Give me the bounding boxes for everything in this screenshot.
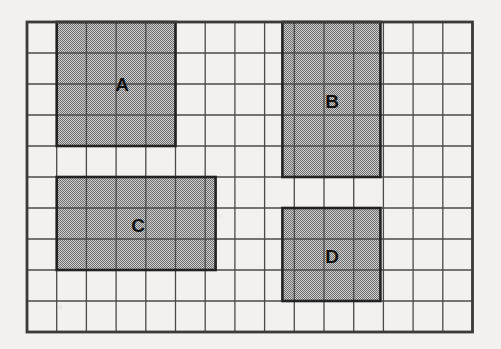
rectangle-label-b: B — [325, 91, 339, 112]
rectangle-label-a: A — [115, 74, 129, 95]
figure-canvas: ABCD — [0, 0, 501, 349]
grid-figure: ABCD — [0, 0, 501, 349]
rectangle-label-d: D — [325, 246, 339, 267]
rectangle-label-c: C — [131, 215, 145, 236]
